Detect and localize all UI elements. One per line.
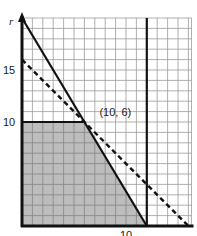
y-tick-label: 10	[3, 116, 15, 128]
feasible-region-chart: r 1015 10 (10, 6)	[0, 0, 197, 236]
x-tick-label: 10	[120, 229, 132, 236]
intersection-point-label: (10, 6)	[99, 106, 131, 118]
y-axis-arrow-icon	[18, 12, 26, 22]
y-axis-label: r	[9, 15, 14, 27]
y-tick-label: 15	[3, 64, 15, 76]
y-tick-labels: 1015	[3, 64, 15, 128]
x-tick-labels: 10	[120, 229, 132, 236]
